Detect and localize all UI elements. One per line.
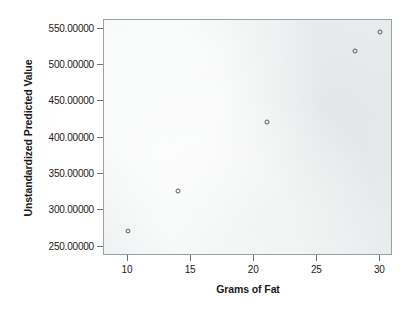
y-tick-label: 350.00000 [4, 167, 94, 178]
y-tick-label: 450.00000 [4, 95, 94, 106]
data-point [176, 188, 181, 193]
y-tick-label: 300.00000 [4, 204, 94, 215]
y-tick-mark [97, 137, 103, 138]
x-tick-label: 15 [170, 264, 210, 275]
y-tick-mark [97, 209, 103, 210]
y-tick-mark [97, 100, 103, 101]
y-tick-label: 550.00000 [4, 22, 94, 33]
x-tick-mark [127, 255, 128, 261]
x-tick-label: 20 [233, 264, 273, 275]
x-tick-label: 25 [296, 264, 336, 275]
x-tick-mark [316, 255, 317, 261]
y-tick-mark [97, 28, 103, 29]
plot-background-texture [104, 20, 391, 254]
x-tick-label: 30 [359, 264, 399, 275]
x-tick-mark [379, 255, 380, 261]
y-tick-mark [97, 173, 103, 174]
data-point [353, 49, 358, 54]
data-point [125, 228, 130, 233]
data-point [264, 119, 269, 124]
y-tick-label: 400.00000 [4, 131, 94, 142]
y-tick-label: 500.00000 [4, 59, 94, 70]
x-tick-mark [190, 255, 191, 261]
x-tick-label: 10 [107, 264, 147, 275]
data-point [378, 30, 383, 35]
x-axis-title: Grams of Fat [103, 283, 393, 295]
scatter-plot-figure: Unstandardized Predicted Value Grams of … [0, 0, 418, 314]
y-tick-label: 250.00000 [4, 240, 94, 251]
x-tick-mark [253, 255, 254, 261]
plot-area [103, 19, 392, 255]
y-tick-mark [97, 246, 103, 247]
y-tick-mark [97, 64, 103, 65]
